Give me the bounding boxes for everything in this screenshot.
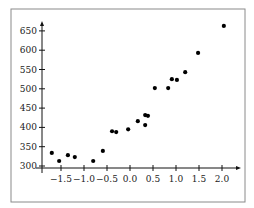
data-point xyxy=(183,70,187,74)
x-tick-label: −1.5 xyxy=(50,174,72,184)
scatter-chart: −1.5−1.0−0.50.00.51.01.52.0 300350400450… xyxy=(0,0,254,208)
y-tick-label: 600 xyxy=(20,45,37,55)
y-tick-label: 350 xyxy=(20,142,37,152)
y-tick-label: 300 xyxy=(20,161,37,171)
data-point xyxy=(50,151,54,155)
y-tick-label: 550 xyxy=(20,65,37,75)
data-point xyxy=(126,127,130,131)
data-point xyxy=(175,78,179,82)
x-tick-label: 1.5 xyxy=(192,174,207,184)
data-point xyxy=(91,159,95,163)
data-point xyxy=(136,119,140,123)
y-tick-label: 500 xyxy=(20,84,37,94)
data-point xyxy=(57,159,61,163)
data-point xyxy=(153,86,157,90)
y-tick-label: 650 xyxy=(20,26,37,36)
data-point xyxy=(170,77,174,81)
data-point xyxy=(166,86,170,90)
x-tick-label: 0.0 xyxy=(123,174,138,184)
x-tick-label: 2.0 xyxy=(215,174,230,184)
x-tick-label: 0.5 xyxy=(146,174,161,184)
x-tick-label: −0.5 xyxy=(96,174,118,184)
data-point xyxy=(146,114,150,118)
data-point xyxy=(196,51,200,55)
data-point xyxy=(110,129,114,133)
data-point xyxy=(101,149,105,153)
data-point xyxy=(66,153,70,157)
data-point xyxy=(73,155,77,159)
data-point xyxy=(114,130,118,134)
y-tick-label: 450 xyxy=(20,103,37,113)
y-tick-label: 400 xyxy=(20,122,37,132)
x-tick-label: −1.0 xyxy=(73,174,95,184)
data-point xyxy=(143,123,147,127)
data-point xyxy=(222,24,226,28)
x-tick-label: 1.0 xyxy=(169,174,184,184)
